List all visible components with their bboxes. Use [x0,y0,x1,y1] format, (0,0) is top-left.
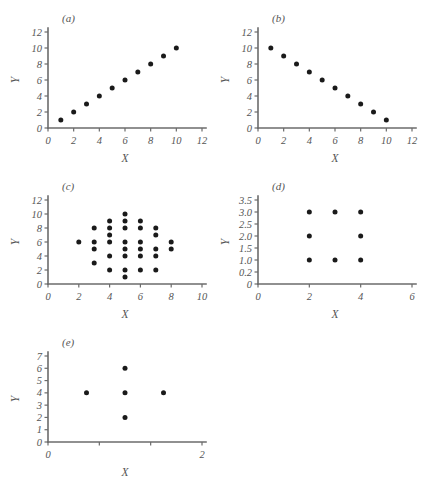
data-point [123,275,128,280]
y-tick-label: 12 [32,195,43,206]
data-point [371,110,376,115]
data-point [107,226,112,231]
x-axis-title: X [120,152,129,164]
y-tick-label: 6 [37,237,43,248]
data-point [97,94,102,99]
data-point [84,102,89,107]
x-tick-label: 4 [97,135,103,146]
y-tick-label: 1 [37,424,42,435]
data-point [123,247,128,252]
x-tick-label: 0 [45,135,51,146]
panel-c: (c)0246810120246810XY [8,176,214,324]
x-tick-label: 0 [45,449,51,460]
x-tick-label: 0 [255,135,261,146]
data-point [123,366,128,371]
data-point [307,70,312,75]
x-tick-label: 6 [138,291,144,302]
y-tick-label: 1.5 [239,243,252,254]
data-point [153,247,158,252]
data-point [138,268,143,273]
x-tick-label: 10 [171,135,182,146]
data-point [148,62,153,67]
y-tick-label: 4 [247,91,253,102]
data-point [123,240,128,245]
x-tick-label: 12 [197,135,208,146]
data-point [123,219,128,224]
y-tick-label: 0 [37,123,43,134]
y-tick-label: 1.0 [239,255,253,266]
y-tick-label: 2 [37,107,43,118]
y-tick-label: 8 [37,59,43,70]
y-tick-label: 3.5 [238,195,252,206]
y-tick-label: 12 [242,27,253,38]
y-tick-label: 10 [32,209,43,220]
y-tick-label: 2.5 [239,219,252,230]
data-point [123,78,128,83]
y-tick-label: 8 [247,59,253,70]
y-tick-label: 0 [247,123,253,134]
x-tick-label: 6 [122,135,128,146]
data-point [123,226,128,231]
y-tick-label: 4 [37,387,43,398]
data-point [358,210,363,215]
data-point [107,240,112,245]
panel-label: (c) [62,180,75,193]
data-point [169,247,174,252]
data-point [281,54,286,59]
y-axis-title: Y [9,394,21,402]
data-point [333,210,338,215]
data-point [153,233,158,238]
data-point [174,46,179,51]
data-point [307,258,312,263]
data-point [358,102,363,107]
data-point [107,254,112,259]
y-tick-label: 10 [32,43,43,54]
x-tick-label: 6 [332,135,338,146]
x-tick-label: 2 [199,449,205,460]
x-axis-title: X [330,152,339,164]
data-point [107,219,112,224]
y-tick-label: 4 [37,91,43,102]
x-tick-label: 2 [281,135,287,146]
x-tick-label: 8 [358,135,364,146]
y-tick-label: 0 [247,279,253,290]
data-point [138,226,143,231]
panel-b: (b)024681012024681012XY [218,8,424,168]
y-tick-label: 8 [37,223,43,234]
x-tick-label: 8 [169,291,175,302]
panel-label: (b) [272,12,285,25]
x-tick-label: 8 [148,135,154,146]
data-point [138,240,143,245]
x-tick-label: 2 [71,135,77,146]
y-axis-title: Y [219,237,231,245]
data-point [294,62,299,67]
data-point [358,234,363,239]
y-tick-label: 5 [37,375,42,386]
data-point [333,86,338,91]
panel-d: (d)00.21.01.52.02.53.03.50246XY [218,176,424,324]
plot-area-b: (b)024681012024681012XY [218,8,424,168]
y-tick-label: 6 [37,363,43,374]
data-point [123,390,128,395]
x-tick-label: 6 [409,291,415,302]
y-tick-label: 0 [37,437,43,448]
data-point [71,110,76,115]
data-point [92,261,97,266]
y-tick-label: 0.2 [239,267,253,278]
data-point [138,247,143,252]
y-tick-label: 12 [32,27,43,38]
data-point [123,254,128,259]
x-axis-title: X [120,308,129,320]
data-point [123,268,128,273]
y-tick-label: 6 [37,75,43,86]
x-axis-title: X [120,466,129,478]
data-point [161,390,166,395]
x-tick-label: 4 [358,291,364,302]
data-point [92,226,97,231]
scatterplot-figure: (a)024681012024681012XY (b)0246810120246… [0,0,430,488]
y-tick-label: 6 [247,75,253,86]
y-tick-label: 2 [247,107,253,118]
x-axis-title: X [330,308,339,320]
y-axis-title: Y [9,237,21,245]
y-tick-label: 3 [36,400,42,411]
